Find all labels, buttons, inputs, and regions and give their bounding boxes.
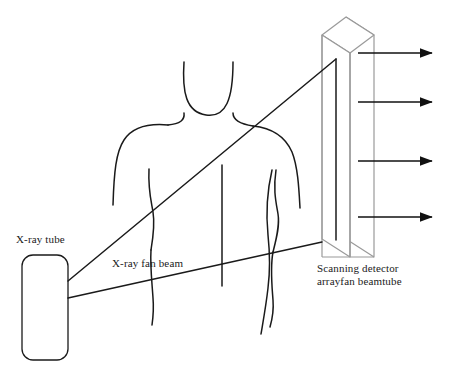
xray-fanbeam-diagram: X-ray tube X-ray fan beam Scanning detec… <box>0 0 458 392</box>
label-scanning-detector: Scanning detector arrayfan beamtube <box>317 262 402 288</box>
shoulder-arm-left <box>113 125 168 205</box>
torso-right-inner-lower <box>270 252 273 327</box>
xray-tube-body[interactable] <box>22 255 68 360</box>
torso-left-inner <box>149 169 154 250</box>
patient-outline-group <box>113 62 300 334</box>
head-jaw-outline <box>184 62 233 115</box>
neck-shoulder-left <box>168 113 184 125</box>
torso-right-flank <box>261 170 272 334</box>
torso-right-inner <box>273 170 279 252</box>
label-xray-tube: X-ray tube <box>16 233 65 246</box>
xray-tube-group[interactable] <box>22 255 68 360</box>
fan-beam-group <box>68 59 336 298</box>
shoulder-arm-right <box>253 126 300 208</box>
label-detector-line-2: arrayfan beamtube <box>317 275 402 288</box>
label-detector-line-1: Scanning detector <box>317 262 399 274</box>
label-xray-fan-beam: X-ray fan beam <box>112 257 183 270</box>
diagram-canvas <box>0 0 458 392</box>
neck-shoulder-right <box>233 113 253 126</box>
